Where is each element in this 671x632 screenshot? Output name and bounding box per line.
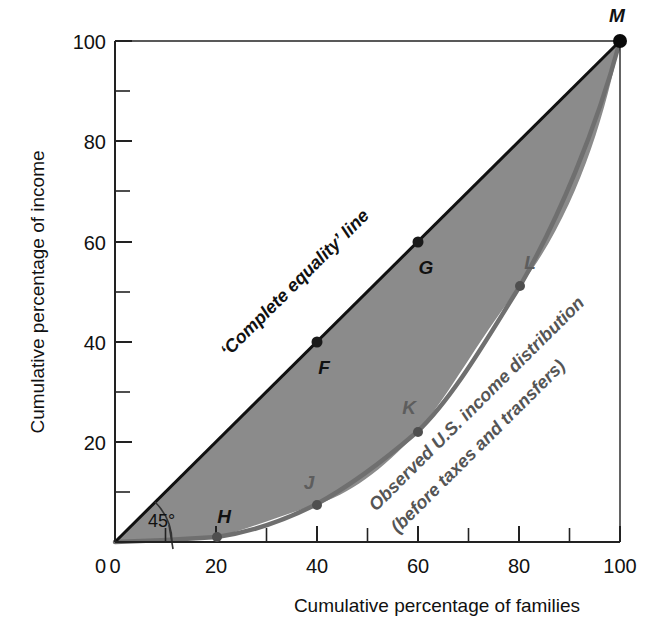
y-axis-title: Cumulative percentage of income xyxy=(27,150,48,433)
point-marker-K[interactable] xyxy=(413,427,423,437)
x-tick-label-40: 40 xyxy=(306,555,328,577)
y-tick-label-40: 40 xyxy=(84,332,106,354)
x-tick-label-0: 0 xyxy=(109,555,120,577)
point-marker-M[interactable] xyxy=(613,34,627,48)
angle-annotation-label: 45° xyxy=(148,511,175,531)
point-marker-H[interactable] xyxy=(212,532,222,542)
y-tick-label-0: 0 xyxy=(95,555,106,577)
point-label-H: H xyxy=(217,506,232,527)
y-tick-label-100: 100 xyxy=(73,31,106,53)
point-marker-L[interactable] xyxy=(515,281,525,291)
y-tick-label-60: 60 xyxy=(84,232,106,254)
y-tick-label-20: 20 xyxy=(84,432,106,454)
x-tick-label-60: 60 xyxy=(407,555,429,577)
point-label-G: G xyxy=(419,257,434,278)
x-tick-label-100: 100 xyxy=(603,555,636,577)
lorenz-curve-figure: 100 80 60 40 20 0 0 20 40 60 80 100 Cumu… xyxy=(0,0,671,632)
point-label-K: K xyxy=(402,397,417,418)
lorenz-chart-svg: 100 80 60 40 20 0 0 20 40 60 80 100 Cumu… xyxy=(0,0,671,632)
point-marker-G[interactable] xyxy=(413,237,424,248)
x-tick-label-20: 20 xyxy=(205,555,227,577)
y-tick-label-80: 80 xyxy=(84,131,106,153)
point-label-F: F xyxy=(318,357,331,378)
point-label-L: L xyxy=(524,252,536,273)
x-axis-title: Cumulative percentage of families xyxy=(294,595,580,616)
point-label-J: J xyxy=(304,472,315,493)
point-marker-J[interactable] xyxy=(312,500,322,510)
x-tick-label-80: 80 xyxy=(508,555,530,577)
point-marker-F[interactable] xyxy=(312,337,323,348)
point-label-M: M xyxy=(609,5,626,26)
